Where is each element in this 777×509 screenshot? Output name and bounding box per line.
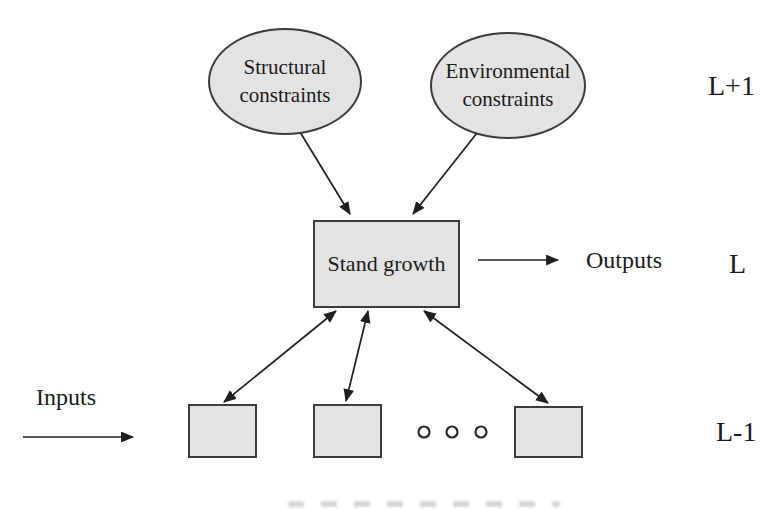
cropped-caption-fragment [288,501,560,507]
arrow-structural-to-stand [300,132,350,214]
node-structural-constraints: Structural constraints [208,28,362,135]
level-label-l-plus-1: L+1 [708,70,755,102]
inputs-label: Inputs [36,384,96,411]
structural-constraints-label: Structural constraints [240,54,331,109]
outputs-label: Outputs [586,247,662,274]
arrow-stand-leafbox3 [424,311,548,403]
node-environmental-constraints: Environmental constraints [430,32,586,139]
level-label-l-minus-1: L-1 [716,416,756,448]
node-stand-growth: Stand growth [313,220,460,308]
arrow-environmental-to-stand [413,133,477,214]
stand-growth-label: Stand growth [328,249,446,278]
environmental-constraints-label: Environmental constraints [446,58,571,113]
leaf-box-1 [188,404,257,458]
ellipsis-dots [419,427,487,438]
arrow-stand-leafbox1 [224,311,336,402]
arrow-stand-leafbox2 [346,311,368,401]
level-label-l: L [729,248,746,280]
leaf-box-3 [514,406,583,458]
leaf-box-2 [313,404,382,458]
diagram-canvas: Structural constraints Environmental con… [0,0,777,509]
